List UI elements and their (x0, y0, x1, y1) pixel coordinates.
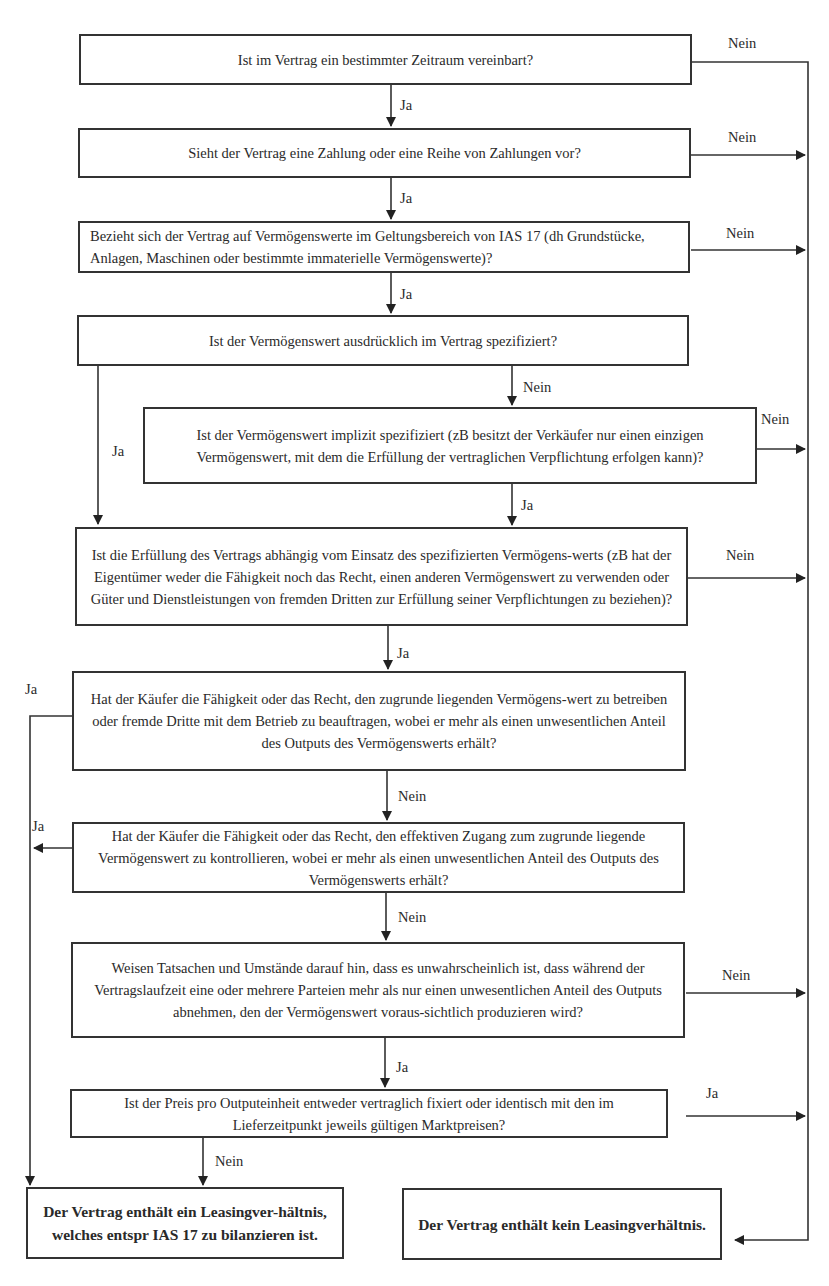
edge-label-yes: Ja (400, 190, 412, 207)
node-text: Ist der Vermögenswert ausdrücklich im Ve… (209, 330, 557, 352)
result-no-lease: Der Vertrag enthält kein Leasingverhältn… (402, 1188, 722, 1260)
edge-label-yes: Ja (397, 645, 409, 662)
edge-label-yes: Ja (32, 818, 44, 835)
node-text: Weisen Tatsachen und Umstände darauf hin… (83, 957, 673, 1023)
question-dependency: Ist die Erfüllung des Vertrags abhängig … (75, 527, 688, 626)
edge-label-no: Nein (523, 379, 551, 396)
question-implicit-asset: Ist der Vermögenswert implizit spezifizi… (143, 407, 757, 484)
edge-label-no: Nein (398, 788, 426, 805)
node-text: Ist die Erfüllung des Vertrags abhängig … (87, 544, 676, 610)
edge-label-yes: Ja (112, 443, 124, 460)
edge-label-no: Nein (398, 909, 426, 926)
edge-label-yes: Ja (521, 497, 533, 514)
node-text: Hat der Käufer die Fähigkeit oder das Re… (84, 825, 673, 891)
question-other-parties: Weisen Tatsachen und Umstände darauf hin… (71, 942, 685, 1038)
question-control-access: Hat der Käufer die Fähigkeit oder das Re… (72, 822, 685, 893)
question-fixed-term: Ist im Vertrag ein bestimmter Zeitraum v… (79, 34, 692, 85)
node-text: Der Vertrag enthält ein Leasingver-hältn… (38, 1200, 332, 1246)
node-text: Sieht der Vertrag eine Zahlung oder eine… (188, 142, 581, 164)
edge-label-no: Nein (761, 411, 789, 428)
edge-label-yes: Ja (400, 97, 412, 114)
node-text: Ist der Vermögenswert implizit spezifizi… (155, 424, 745, 468)
question-price-per-unit: Ist der Preis pro Outputeinheit entweder… (70, 1089, 668, 1138)
node-text: Hat der Käufer die Fähigkeit oder das Re… (84, 688, 674, 754)
node-text: Ist der Preis pro Outputeinheit entweder… (82, 1092, 656, 1136)
question-operate-asset: Hat der Käufer die Fähigkeit oder das Re… (72, 671, 686, 771)
node-text: Bezieht sich der Vertrag auf Vermögenswe… (90, 225, 678, 269)
edge-label-no: Nein (726, 225, 754, 242)
edge-label-no: Nein (728, 129, 756, 146)
question-ias17-scope: Bezieht sich der Vertrag auf Vermögenswe… (78, 221, 690, 273)
edge-label-no: Nein (722, 967, 750, 984)
question-explicit-asset: Ist der Vermögenswert ausdrücklich im Ve… (77, 315, 689, 366)
edge-label-yes: Ja (25, 681, 37, 698)
node-text: Ist im Vertrag ein bestimmter Zeitraum v… (238, 49, 533, 71)
edge-label-no: Nein (726, 547, 754, 564)
edge-label-no: Nein (215, 1153, 243, 1170)
edge-label-yes: Ja (400, 286, 412, 303)
result-lease: Der Vertrag enthält ein Leasingver-hältn… (26, 1187, 344, 1259)
edge-label-yes: Ja (396, 1059, 408, 1076)
node-text: Der Vertrag enthält kein Leasingverhältn… (418, 1213, 706, 1236)
edge-label-no: Nein (728, 35, 756, 52)
question-payments: Sieht der Vertrag eine Zahlung oder eine… (78, 128, 691, 178)
edge-label-yes: Ja (706, 1085, 718, 1102)
